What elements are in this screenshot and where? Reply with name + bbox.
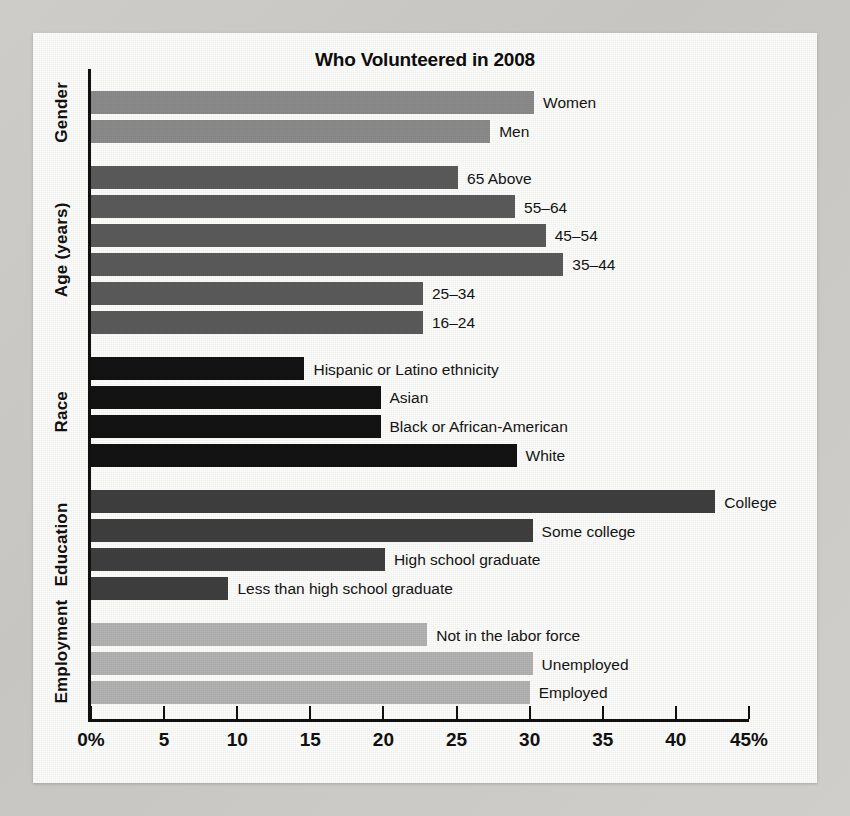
bar: [91, 386, 381, 409]
x-tick-label: 15: [300, 729, 321, 751]
bar-label: Hispanic or Latino ethnicity: [313, 362, 498, 378]
x-tick-10: [236, 706, 238, 719]
bar-label: Men: [499, 124, 529, 140]
bar-label: Unemployed: [542, 657, 629, 673]
x-tick-label: 10: [227, 729, 248, 751]
x-tick-label: 35: [592, 729, 613, 751]
x-tick-45: [748, 706, 750, 719]
bar: [91, 577, 228, 600]
x-tick-15: [309, 706, 311, 719]
bar-label: Not in the labor force: [436, 628, 580, 644]
x-tick-label: 45%: [730, 729, 768, 751]
group-label-employment: Employment: [52, 623, 72, 704]
x-tick-30: [529, 706, 531, 719]
bar: [91, 166, 458, 189]
x-tick-35: [602, 706, 604, 719]
bar-label: 25–34: [432, 286, 475, 302]
bar-label: Some college: [542, 524, 636, 540]
x-tick-label: 40: [665, 729, 686, 751]
bar: [91, 311, 423, 334]
bar-label: 45–54: [555, 228, 598, 244]
x-tick-label: 5: [159, 729, 170, 751]
x-tick-label: 20: [373, 729, 394, 751]
bar: [91, 357, 304, 380]
group-label-education: Education: [52, 490, 72, 599]
bar: [91, 120, 490, 143]
x-tick-label: 25: [446, 729, 467, 751]
bar: [91, 444, 517, 467]
bar: [91, 623, 427, 646]
group-label-gender: Gender: [52, 91, 72, 143]
chart-title: Who Volunteered in 2008: [33, 49, 817, 71]
plot-area: 0%51015202530354045% WomenMen65 Above55–…: [88, 69, 778, 729]
bar-label: 65 Above: [467, 171, 532, 187]
x-tick-label: 0%: [77, 729, 104, 751]
x-tick-label: 30: [519, 729, 540, 751]
bar-label: Employed: [539, 685, 608, 701]
chart-figure-card: Who Volunteered in 2008 0%51015202530354…: [33, 33, 817, 783]
bar: [91, 91, 534, 114]
bar-label: 16–24: [432, 315, 475, 331]
bar: [91, 195, 515, 218]
bar-label: Women: [543, 95, 596, 111]
x-axis-line: [88, 719, 749, 722]
bar: [91, 224, 546, 247]
bar: [91, 652, 533, 675]
bar: [91, 681, 530, 704]
bar-label: College: [724, 495, 777, 511]
bar: [91, 519, 533, 542]
bar-label: High school graduate: [394, 552, 541, 568]
bar: [91, 282, 423, 305]
bar-label: Asian: [390, 390, 429, 406]
bar: [91, 548, 385, 571]
bar-label: Black or African-American: [390, 419, 568, 435]
x-tick-20: [382, 706, 384, 719]
x-tick-25: [456, 706, 458, 719]
x-tick-5: [163, 706, 165, 719]
bar: [91, 490, 715, 513]
x-tick-40: [675, 706, 677, 719]
group-label-race: Race: [52, 357, 72, 466]
bar-label: White: [526, 448, 566, 464]
bar-label: 35–44: [572, 257, 615, 273]
bar-label: 55–64: [524, 200, 567, 216]
bar: [91, 415, 381, 438]
bar-label: Less than high school graduate: [237, 581, 452, 597]
group-label-age-years: Age (years): [52, 166, 72, 333]
x-tick-0: [90, 706, 92, 719]
bar: [91, 253, 563, 276]
